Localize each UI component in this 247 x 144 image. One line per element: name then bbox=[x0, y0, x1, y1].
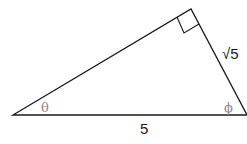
right-angle-marker bbox=[177, 17, 199, 33]
angle-theta-label: θ bbox=[41, 100, 49, 115]
side-base-label: 5 bbox=[140, 120, 148, 137]
triangle-diagram: θ ϕ √5 5 bbox=[0, 0, 247, 144]
angle-phi-label: ϕ bbox=[224, 100, 233, 115]
side-sqrt5-label: √5 bbox=[222, 45, 239, 62]
